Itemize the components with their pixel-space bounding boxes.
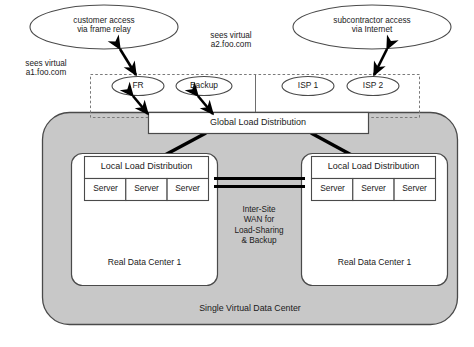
cloud-customer-access-label: customer access via frame relay — [34, 16, 174, 34]
server-label: Server — [394, 184, 435, 193]
server-label: Server — [353, 184, 394, 193]
access-node-fr-label: FR — [113, 81, 163, 90]
server-label: Server — [126, 184, 167, 193]
diagram-vector-layer — [0, 0, 474, 347]
arrow-subcontractor-to-isp2 — [374, 49, 387, 75]
server-label: Server — [85, 184, 126, 193]
real-data-center-right-label: Real Data Center 1 — [302, 258, 447, 268]
global-load-distribution-label: Global Load Distribution — [148, 117, 368, 127]
server-label: Server — [312, 184, 353, 193]
local-load-distribution-label-right: Local Load Distribution — [312, 161, 435, 171]
access-node-isp1-label: ISP 1 — [283, 81, 333, 90]
arrow-fr-to-global — [133, 96, 148, 114]
annotation-a1-foo-com: sees virtual a1.foo.com — [4, 59, 88, 77]
server-label: Server — [167, 184, 208, 193]
access-node-isp2-label: ISP 2 — [348, 81, 398, 90]
access-node-backup-label: Backup — [176, 81, 232, 90]
real-data-center-left-label: Real Data Center 1 — [72, 258, 217, 268]
diagram-canvas: customer access via frame relay subcontr… — [0, 0, 474, 347]
local-load-distribution-label-left: Local Load Distribution — [85, 161, 208, 171]
arrow-customer-to-fr — [120, 49, 136, 75]
cloud-subcontractor-access-label: subcontractor access via Internet — [297, 16, 447, 34]
annotation-a2-foo-com: sees virtual a2.foo.com — [189, 31, 273, 49]
intersite-wan-label: Inter-Site WAN for Load-Sharing & Backup — [213, 205, 305, 246]
single-virtual-data-center-label: Single Virtual Data Center — [43, 304, 457, 314]
arrow-backup-to-global — [198, 96, 213, 114]
